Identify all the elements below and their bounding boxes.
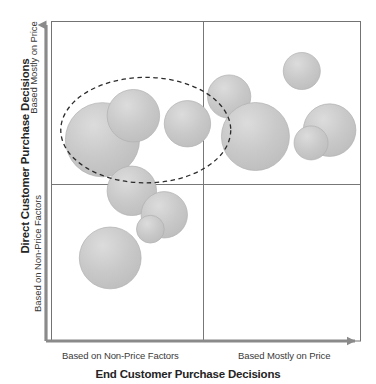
x-axis-title: End Customer Purchase Decisions — [0, 368, 376, 380]
bubble-ll-bottom — [79, 227, 141, 289]
x-axis-tick-left: Based on Non-Price Factors — [62, 350, 179, 361]
bubble-ll-midsmall — [136, 215, 164, 243]
bubble-ul-small — [164, 101, 210, 147]
bubble-ur-right-sm — [294, 126, 328, 160]
plot-canvas — [0, 0, 376, 384]
bubble-ul-medium — [107, 89, 160, 142]
y-axis-tick-top: Based Mostly on Price — [28, 13, 39, 123]
x-axis-tick-right: Based Mostly on Price — [238, 350, 330, 361]
bubble-ur-large — [221, 103, 289, 171]
bubble-quadrant-chart: Direct Customer Purchase Decisions Based… — [0, 0, 376, 384]
y-axis-tick-bottom: Based on Non-Price Factors — [32, 189, 43, 319]
bubble-ur-top — [283, 52, 320, 89]
